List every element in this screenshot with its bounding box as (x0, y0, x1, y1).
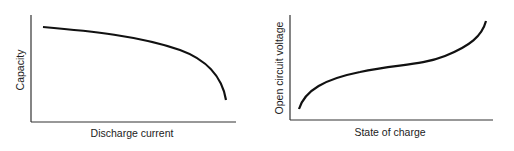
x-axis-label: Discharge current (91, 127, 174, 139)
y-axis-label: Open circuit voltage (273, 21, 285, 114)
capacity-chart: Discharge current Capacity (14, 15, 236, 139)
x-axis-label: State of charge (354, 126, 425, 138)
chart-canvas: Discharge current Capacity State of char… (0, 0, 514, 151)
capacity-curve (43, 27, 226, 100)
ocv-curve (299, 21, 486, 109)
y-axis-label: Capacity (14, 49, 26, 91)
ocv-chart: State of charge Open circuit voltage (273, 15, 493, 138)
